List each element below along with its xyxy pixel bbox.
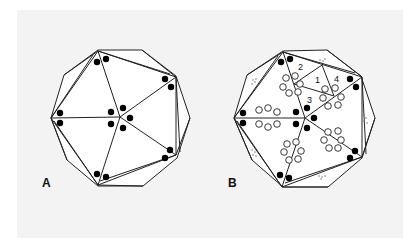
subtriangle-label-1: 1 bbox=[315, 75, 320, 85]
dot bbox=[120, 125, 126, 131]
dot bbox=[127, 115, 133, 121]
panel-label-a: A bbox=[42, 176, 51, 190]
subtriangle-label-3: 3 bbox=[307, 95, 312, 105]
dot bbox=[167, 147, 173, 153]
subtriangle-label-2: 2 bbox=[298, 62, 303, 72]
dot bbox=[103, 174, 109, 180]
figure-canvas: A bbox=[0, 0, 419, 250]
dot bbox=[94, 171, 100, 177]
dot bbox=[162, 155, 168, 161]
dot bbox=[57, 120, 63, 126]
subtriangle-label-4: 4 bbox=[334, 74, 339, 84]
panel-b bbox=[234, 50, 375, 187]
dot bbox=[103, 56, 109, 62]
dot bbox=[57, 110, 63, 116]
dot bbox=[94, 59, 100, 65]
panel-label-b: B bbox=[228, 176, 237, 190]
dot bbox=[120, 105, 126, 111]
dot bbox=[108, 121, 114, 127]
dot bbox=[162, 76, 168, 82]
dot bbox=[108, 109, 114, 115]
panel-a bbox=[51, 50, 190, 186]
dot bbox=[168, 84, 174, 90]
